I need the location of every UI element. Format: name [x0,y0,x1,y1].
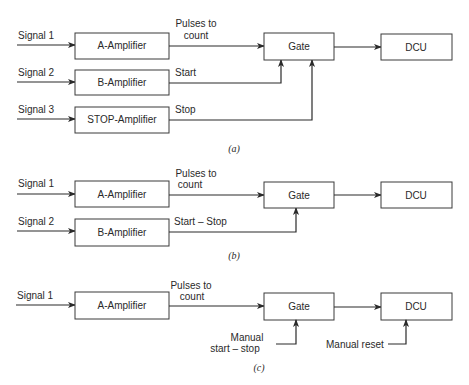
manual-reset-arrow [388,320,406,344]
diagram-c: Signal 1 A-Amplifier Pulses to count Gat… [16,280,452,374]
caption-c: (c) [253,362,265,374]
pulses-to-label: Pulses to [175,18,217,29]
signal-1-label: Signal 1 [18,178,55,189]
start-label: Start [175,67,196,78]
a-amplifier-label: A-Amplifier [98,189,148,200]
signal-3-label: Signal 3 [18,104,55,115]
gate-label: Gate [288,301,310,312]
caption-b: (b) [228,250,240,262]
dcu-label: DCU [405,190,427,201]
pulses-to-label: Pulses to [175,168,217,179]
signal-2-label: Signal 2 [18,216,55,227]
block-diagram-figure: Signal 1 Signal 2 Signal 3 A-Amplifier B… [0,0,469,385]
count-label: count [178,179,203,190]
pulses-to-label: Pulses to [170,280,212,291]
gate-label: Gate [288,190,310,201]
count-label: count [184,30,209,41]
b-amplifier-label: B-Amplifier [98,77,148,88]
manual-reset-label: Manual reset [326,339,384,350]
diagram-a: Signal 1 Signal 2 Signal 3 A-Amplifier B… [17,18,452,155]
signal-1-label: Signal 1 [17,290,54,301]
manual-start-stop-arrow [276,320,296,344]
diagram-b: Signal 1 Signal 2 A-Amplifier B-Amplifie… [17,168,452,262]
a-amplifier-label: A-Amplifier [98,40,148,51]
gate-label: Gate [288,41,310,52]
a-amplifier-label: A-Amplifier [98,300,148,311]
signal-1-label: Signal 1 [18,30,55,41]
manual-label: Manual [231,332,264,343]
signal-2-label: Signal 2 [18,67,55,78]
start-stop-label: start – stop [210,343,260,354]
dcu-label: DCU [405,301,427,312]
caption-a: (a) [228,143,240,155]
count-label: count [180,291,205,302]
stop-label: Stop [175,104,196,115]
dcu-label: DCU [405,42,427,53]
stop-amplifier-label: STOP-Amplifier [87,114,157,125]
start-stop-label: Start – Stop [174,216,227,227]
b-amplifier-label: B-Amplifier [98,227,148,238]
